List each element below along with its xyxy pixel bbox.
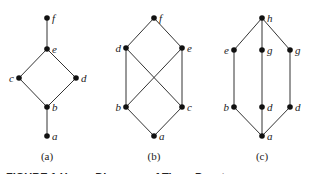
node-b-e [179,45,185,51]
node-label: f [52,12,57,24]
node-label: h [267,12,273,24]
node-c-d [287,104,293,110]
node-c-h [259,15,265,21]
node-label: b [224,101,230,113]
edge-a-e-c [19,49,47,78]
node-b-f [151,15,157,21]
node-label: c [9,72,14,84]
node-label: e [224,44,229,56]
node-c-g [259,47,265,53]
node-label: a [159,130,165,142]
diagram-captions: (a)(b)(c) [41,150,269,163]
node-c-d [259,104,265,110]
node-label: b [116,101,122,113]
node-label: d [116,42,122,54]
node-label: e [52,43,57,55]
node-label: a [52,130,58,142]
node-b-a [151,133,157,139]
edge-c-h-e [234,18,262,50]
node-c-b [231,104,237,110]
node-label: c [187,101,192,113]
edge-b-b-a [126,107,154,136]
edge-b-f-d [126,18,154,48]
hasse-diagrams-figure: fecdbafdebcaheggbdda (a)(b)(c) FIGURE 1 … [0,0,315,174]
node-label: g [267,44,273,56]
node-a-f [44,15,50,21]
node-c-e [231,47,237,53]
subfigure-caption-c: (c) [256,150,269,163]
node-c-a [259,133,265,139]
node-a-d [73,75,79,81]
node-label: a [267,130,273,142]
edge-a-c-b [19,78,47,107]
node-b-d [123,45,129,51]
node-label: d [81,72,87,84]
node-a-b [44,104,50,110]
edge-c-b-a [234,107,262,136]
node-a-a [44,133,50,139]
subfigure-caption-a: (a) [41,150,54,163]
subfigure-caption-b: (b) [148,150,161,163]
node-label: e [187,42,192,54]
node-label: f [159,12,164,24]
node-b-c [179,104,185,110]
node-label: b [52,101,58,113]
node-label: d [295,101,301,113]
node-a-c [16,75,22,81]
node-label: g [295,44,301,56]
diagram-edges [19,18,290,136]
figure-caption: FIGURE 1 Hasse Diagrams of Three Posets [6,171,231,174]
node-a-e [44,46,50,52]
node-c-g [287,47,293,53]
node-b-b [123,104,129,110]
node-label: d [267,101,273,113]
